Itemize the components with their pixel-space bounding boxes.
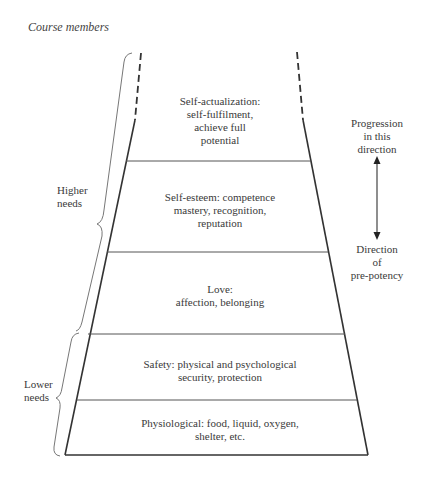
level-self-actualization: Self-actualization: self-fulfilment, ach… — [150, 95, 290, 147]
hierarchy-pyramid — [0, 0, 427, 478]
level-safety: Safety: physical and psychological secur… — [110, 358, 330, 384]
level-physiological: Physiological: food, liquid, oxygen, she… — [110, 417, 330, 443]
arrow-down-head — [374, 232, 381, 240]
pyramid-right-edge — [303, 120, 368, 455]
pre-potency-label: Direction of pre-potency — [342, 243, 412, 282]
higher-needs-label: Higher needs — [57, 184, 88, 210]
lower-needs-label: Lower needs — [24, 378, 53, 404]
lower-needs-brace — [54, 333, 79, 456]
arrow-up-head — [374, 156, 381, 164]
level-self-esteem: Self-esteem: competence mastery, recogni… — [140, 191, 300, 230]
pyramid-left-edge — [65, 120, 135, 455]
level-love: Love: affection, belonging — [140, 283, 300, 309]
pyramid-right-dashed-edge — [297, 52, 303, 120]
progression-label: Progression in this direction — [342, 117, 412, 156]
pyramid-left-dashed-edge — [135, 53, 141, 120]
